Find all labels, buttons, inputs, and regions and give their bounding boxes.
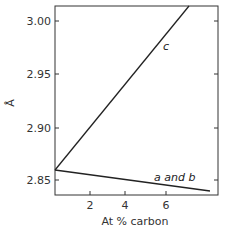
y-tick-label: 3.00	[27, 15, 52, 28]
y-tick-label: 2.85	[27, 174, 52, 187]
y-axis-label: Å	[4, 99, 17, 107]
y-tick-label: 2.90	[27, 122, 52, 135]
plot-frame	[55, 6, 218, 195]
x-ticks	[90, 191, 166, 195]
x-axis-label: At % carbon	[101, 215, 168, 228]
chart: 3.00 2.95 2.90 2.85 2 4 6 At % carbon Å …	[0, 0, 229, 237]
y-tick-label: 2.95	[27, 68, 52, 81]
series-c-line	[55, 6, 189, 170]
y-ticks	[55, 21, 218, 180]
x-tick-label: 4	[122, 199, 129, 212]
x-tick-label: 2	[87, 199, 94, 212]
series-c-label: c	[163, 40, 169, 53]
x-tick-label: 6	[163, 199, 170, 212]
series-ab-label: a and b	[154, 171, 195, 184]
